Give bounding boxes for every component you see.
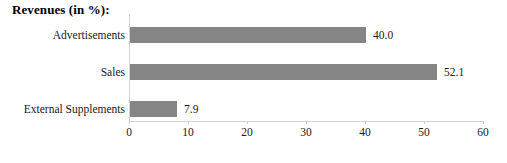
x-tick-label-20: 20 bbox=[241, 126, 253, 138]
x-tick-label-10: 10 bbox=[182, 126, 194, 138]
bar-value-advertisements: 40.0 bbox=[373, 29, 393, 41]
x-tick-mark-20 bbox=[247, 121, 248, 124]
category-label-advertisements: Advertisements bbox=[53, 29, 125, 41]
category-label-external-supplements: External Supplements bbox=[24, 103, 125, 115]
bar-advertisements bbox=[130, 27, 366, 43]
x-tick-mark-0 bbox=[129, 121, 130, 124]
x-tick-mark-40 bbox=[365, 121, 366, 124]
bar-value-external-supplements: 7.9 bbox=[184, 103, 198, 115]
x-tick-mark-30 bbox=[306, 121, 307, 124]
x-tick-mark-50 bbox=[424, 121, 425, 124]
y-axis-line bbox=[129, 14, 130, 121]
x-tick-mark-10 bbox=[188, 121, 189, 124]
x-tick-label-50: 50 bbox=[418, 126, 430, 138]
bar-sales bbox=[130, 64, 437, 80]
plot-area: Advertisements Sales External Supplement… bbox=[0, 0, 507, 163]
chart-screenshot: Revenues (in %): Advertisements Sales Ex… bbox=[0, 0, 507, 163]
bar-external-supplements bbox=[130, 101, 177, 117]
bar-value-sales: 52.1 bbox=[444, 66, 464, 78]
category-label-sales: Sales bbox=[101, 66, 125, 78]
x-tick-label-60: 60 bbox=[477, 126, 489, 138]
x-tick-label-40: 40 bbox=[359, 126, 371, 138]
x-tick-label-0: 0 bbox=[126, 126, 132, 138]
x-tick-label-30: 30 bbox=[300, 126, 312, 138]
x-tick-mark-60 bbox=[483, 121, 484, 124]
